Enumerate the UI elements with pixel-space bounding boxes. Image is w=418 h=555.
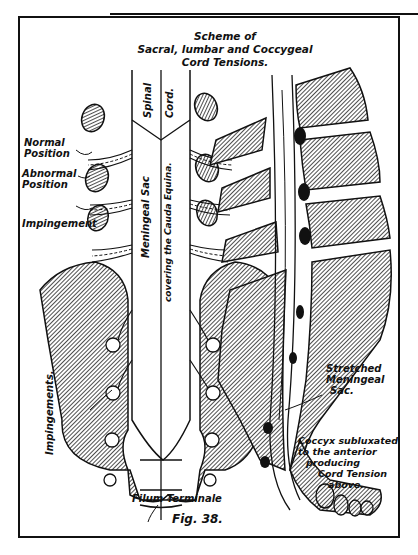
label-impingements: Impingements.	[44, 370, 55, 455]
label-spinal: Spinal	[142, 83, 153, 118]
label-normal-position: Normal Position	[24, 137, 70, 159]
label-cord: Cord.	[164, 88, 175, 118]
label-covering-cauda-equina: covering the Cauda Equina.	[163, 162, 173, 302]
title-line-2: Sacral, lumbar and Coccygeal	[100, 43, 350, 56]
label-abnormal-position: Abnormal Position	[22, 168, 76, 190]
label-coccyx-note: Coccyx subluxated to the anterior produc…	[298, 435, 398, 490]
figure-title: Scheme of Sacral, lumbar and Coccygeal C…	[100, 30, 350, 69]
label-meningeal-sac: Meningeal Sac	[140, 176, 151, 258]
label-filum-terminale: Filum Terminale	[132, 493, 222, 504]
label-stretched-meningeal-sac: Stretched Meningeal Sac.	[326, 363, 385, 396]
figure-caption: Fig. 38.	[172, 512, 223, 526]
title-line-3: Cord Tensions.	[100, 56, 350, 69]
label-impingement: Impingement	[22, 218, 97, 229]
title-line-1: Scheme of	[100, 30, 350, 43]
